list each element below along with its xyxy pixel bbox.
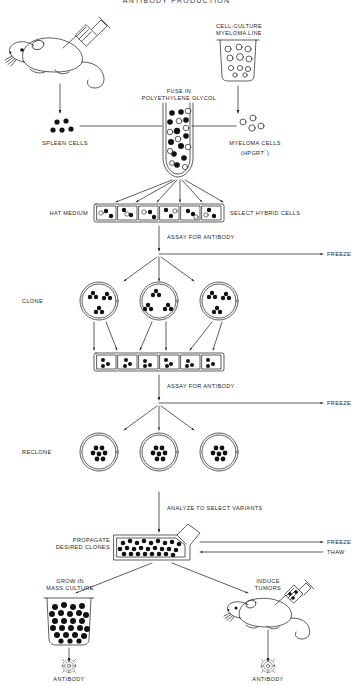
beaker-icon (217, 40, 259, 81)
label-freeze-3: FREEZE (327, 539, 353, 546)
antibody-starburst-icon (62, 659, 275, 673)
well-plate-icon (94, 204, 224, 222)
figure-canvas: ANTIBODY PRODUCTION (0, 0, 353, 686)
beaker-icon (44, 598, 94, 645)
label-freeze-2: FREEZE (327, 400, 353, 407)
label-freeze-1: FREEZE (327, 251, 353, 258)
label-cell-culture-myeloma-line: CELL-CULTURE MYELOMA LINE (196, 23, 282, 37)
well-plate-icon (94, 353, 224, 371)
label-antibody-right: ANTIBODY (233, 676, 303, 683)
genotype-suffix: ) (267, 150, 269, 156)
label-fuse-in-polyethylene-glycol: FUSE IN POLYETHYLENE GLYCOL (118, 88, 240, 102)
label-myeloma-genotype: (HPGRT−) (208, 147, 302, 157)
white-cells-icon (240, 115, 264, 131)
mouse-with-syringe-icon (5, 17, 110, 88)
genotype-prefix: (HPGRT (241, 150, 264, 156)
label-reclone: RECLONE (22, 449, 74, 456)
label-select-hybrid-cells: SELECT HYBRID CELLS (230, 210, 340, 217)
label-induce-tumors: INDUCE TUMORS (228, 578, 308, 592)
label-hat-medium: HAT MEDIUM (10, 210, 88, 217)
label-clone: CLONE (22, 298, 72, 305)
label-analyze-to-select-variants: ANALYZE TO SELECT VARIANTS (167, 505, 317, 512)
black-cells-icon (50, 118, 73, 132)
label-assay-for-antibody-1: ASSAY FOR ANTIBODY (167, 234, 287, 241)
label-propagate-desired-clones: PROPAGATE DESIRED CLONES (30, 537, 110, 551)
culture-flask-icon (114, 524, 200, 560)
label-spleen-cells: SPLEEN CELLS (20, 140, 110, 147)
label-antibody-left: ANTIBODY (34, 676, 104, 683)
petri-dish-icon (80, 282, 238, 320)
label-assay-for-antibody-2: ASSAY FOR ANTIBODY (167, 383, 287, 390)
label-thaw: THAW (327, 549, 353, 556)
test-tube-icon (163, 103, 193, 177)
label-grow-in-mass-culture: GROW IN MASS CULTURE (26, 578, 114, 592)
